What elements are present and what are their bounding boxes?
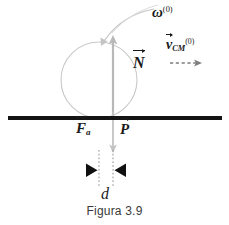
spin-arc-arrowhead xyxy=(101,38,108,47)
friction-subscript: a xyxy=(86,127,91,137)
velocity-symbol: v xyxy=(166,37,172,52)
dimension-marker-right xyxy=(115,164,127,178)
velocity-superscript: (0) xyxy=(185,37,194,46)
spin-arc xyxy=(104,9,154,41)
weight-force-label: P xyxy=(120,122,129,137)
friction-force-symbol: F xyxy=(76,120,86,136)
velocity-subscript: CM xyxy=(172,44,185,53)
physics-figure-3-9: ω(0) vCM(0) N Fa P d Figura 3.9 xyxy=(0,0,229,225)
normal-force-vector-glyph: N xyxy=(133,55,145,71)
weight-force-vector-glyph: P xyxy=(120,122,129,137)
weight-force-symbol: P xyxy=(120,121,129,137)
angular-velocity-label: ω(0) xyxy=(152,5,173,20)
omega-superscript: (0) xyxy=(163,5,173,14)
omega-symbol: ω xyxy=(152,4,163,20)
vector-accent-arrow-icon xyxy=(76,117,86,118)
vector-accent-arrow-icon xyxy=(120,118,129,119)
velocity-cm-label: vCM(0) xyxy=(166,38,194,53)
velocity-cm-vector-glyph: v xyxy=(166,38,172,52)
normal-force-label: N xyxy=(133,55,145,71)
vector-accent-arrow-icon xyxy=(166,34,172,35)
figure-caption: Figura 3.9 xyxy=(0,204,229,218)
normal-force-symbol: N xyxy=(133,54,145,71)
diagram-canvas xyxy=(0,0,229,225)
dimension-marker-left xyxy=(86,164,98,178)
friction-force-label: Fa xyxy=(76,121,91,137)
friction-force-vector-glyph: F xyxy=(76,121,86,136)
ball-circle xyxy=(61,42,137,118)
distance-label: d xyxy=(101,186,109,202)
vector-accent-arrow-icon xyxy=(133,50,145,51)
